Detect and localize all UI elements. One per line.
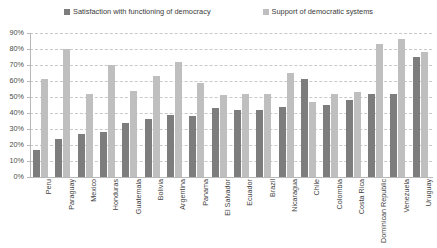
y-axis-tick-mark	[27, 113, 30, 114]
bar-group	[299, 33, 321, 177]
bar[interactable]	[323, 105, 330, 177]
bar[interactable]	[175, 62, 182, 177]
y-axis-tick-mark	[27, 145, 30, 146]
bar[interactable]	[78, 134, 85, 177]
y-axis-tick-mark	[27, 81, 30, 82]
bar-group	[344, 33, 366, 177]
bar[interactable]	[331, 94, 338, 177]
y-axis-tick-label: 70%	[0, 61, 24, 68]
bar-group	[98, 33, 120, 177]
bar[interactable]	[145, 119, 152, 177]
bar[interactable]	[413, 57, 420, 177]
bar[interactable]	[242, 94, 249, 177]
bar-group	[411, 33, 433, 177]
bar[interactable]	[287, 73, 294, 177]
bar-group	[76, 33, 98, 177]
bars-layer	[31, 33, 433, 177]
bar[interactable]	[376, 44, 383, 177]
bar-group	[210, 33, 232, 177]
y-axis-tick-label: 60%	[0, 77, 24, 84]
bar[interactable]	[86, 94, 93, 177]
bar[interactable]	[197, 83, 204, 177]
y-axis-tick-mark	[27, 97, 30, 98]
category-label: Bolivia	[157, 179, 164, 200]
bar[interactable]	[212, 108, 219, 177]
bar[interactable]	[368, 94, 375, 177]
category-label: Chile	[313, 179, 320, 195]
bar[interactable]	[390, 94, 397, 177]
category-label: Brazil	[269, 179, 276, 197]
legend-swatch-dark	[64, 9, 70, 15]
category-label: Peru	[45, 179, 52, 194]
y-axis-tick-label: 40%	[0, 109, 24, 116]
y-axis-tick-mark	[27, 161, 30, 162]
category-label: Honduras	[112, 179, 119, 210]
bar[interactable]	[189, 116, 196, 177]
bar[interactable]	[220, 95, 227, 177]
category-label: Colombia	[336, 179, 343, 209]
bar-group	[321, 33, 343, 177]
legend-swatch-light	[263, 9, 269, 15]
category-label: Guatemala	[135, 179, 142, 214]
bar[interactable]	[398, 39, 405, 177]
y-axis-tick-label: 10%	[0, 157, 24, 164]
bar-group	[120, 33, 142, 177]
y-axis-tick-label: 30%	[0, 125, 24, 132]
category-label: Argentina	[179, 179, 186, 210]
category-label: Dominican Republic	[380, 179, 387, 243]
y-axis-tick-label: 50%	[0, 93, 24, 100]
bar[interactable]	[100, 132, 107, 177]
bar-group	[31, 33, 53, 177]
category-label: Venezuela	[403, 179, 410, 213]
bar[interactable]	[421, 52, 428, 177]
bar[interactable]	[33, 150, 40, 177]
bar[interactable]	[346, 100, 353, 177]
bar-group	[53, 33, 75, 177]
bar[interactable]	[256, 110, 263, 177]
bar-group	[366, 33, 388, 177]
category-label: Ecuador	[246, 179, 253, 206]
bar[interactable]	[63, 49, 70, 177]
category-label: Costa Rica	[358, 179, 365, 214]
category-label: Mexico	[90, 179, 97, 202]
category-label: Paraguay	[68, 179, 75, 210]
bar-group	[143, 33, 165, 177]
bar[interactable]	[122, 123, 129, 177]
y-axis-tick-label: 90%	[0, 29, 24, 36]
bar[interactable]	[167, 115, 174, 177]
legend-entry[interactable]: Support of democratic systems	[263, 8, 373, 15]
category-label: Nicaragua	[291, 179, 298, 212]
bar[interactable]	[234, 110, 241, 177]
category-label: Uruguay	[425, 179, 432, 206]
bar[interactable]	[55, 139, 62, 177]
category-label: El Salvador	[224, 179, 231, 216]
y-axis-tick-mark	[27, 129, 30, 130]
bar[interactable]	[108, 65, 115, 177]
bar[interactable]	[153, 76, 160, 177]
bar-group	[277, 33, 299, 177]
y-axis-tick-mark	[27, 49, 30, 50]
x-axis-category-labels: PeruParaguayMexicoHondurasGuatemalaBoliv…	[31, 179, 433, 248]
bar-group	[165, 33, 187, 177]
y-axis-tick-mark	[27, 65, 30, 66]
bar[interactable]	[41, 79, 48, 177]
y-axis-tick-label: 0%	[0, 173, 24, 180]
bar-chart: Satisfaction with functioning of democra…	[0, 0, 437, 248]
bar[interactable]	[279, 107, 286, 177]
legend-label: Support of democratic systems	[272, 8, 373, 15]
bar[interactable]	[301, 79, 308, 177]
bar[interactable]	[309, 102, 316, 177]
bar-group	[254, 33, 276, 177]
bar[interactable]	[264, 94, 271, 177]
legend-label: Satisfaction with functioning of democra…	[73, 8, 211, 15]
y-axis-tick-label: 20%	[0, 141, 24, 148]
bar-group	[388, 33, 410, 177]
category-label: Panama	[202, 179, 209, 206]
bar[interactable]	[130, 91, 137, 177]
y-axis-tick-mark	[27, 177, 30, 178]
bar[interactable]	[354, 92, 361, 177]
chart-legend: Satisfaction with functioning of democra…	[0, 4, 437, 20]
legend-entry[interactable]: Satisfaction with functioning of democra…	[64, 8, 211, 15]
bar-group	[187, 33, 209, 177]
y-axis-tick-label: 80%	[0, 45, 24, 52]
